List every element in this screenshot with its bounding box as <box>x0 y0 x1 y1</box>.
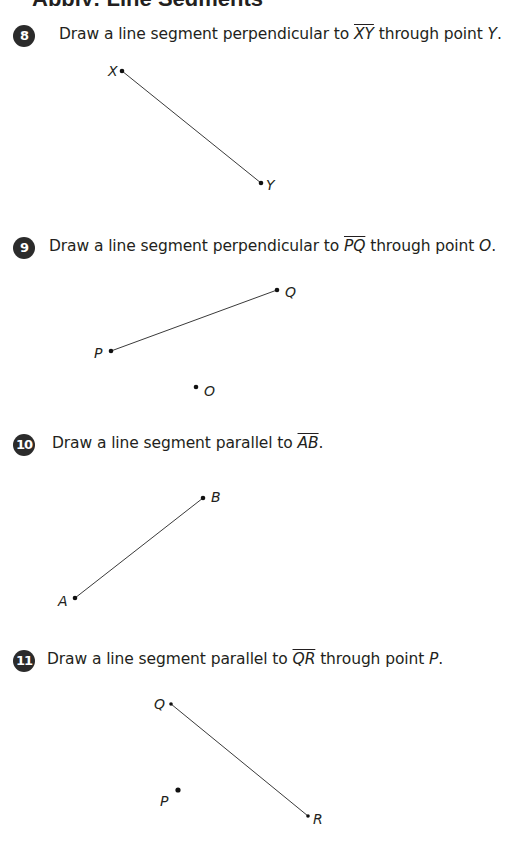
point-dot <box>175 787 180 792</box>
point-dot <box>73 596 78 601</box>
segment-line <box>75 498 203 598</box>
geometry-figures: X Y P Q O A B Q R P <box>0 0 523 860</box>
point-label: X <box>107 63 118 79</box>
point-label: O <box>204 383 215 399</box>
point-dot <box>120 69 125 74</box>
point-dot <box>109 349 114 354</box>
point-label: R <box>313 811 323 827</box>
point-dot <box>306 814 310 818</box>
point-dot <box>201 496 206 501</box>
point-label: P <box>94 345 103 361</box>
point-label: A <box>57 593 68 609</box>
point-dot <box>259 181 264 186</box>
point-label: B <box>211 489 221 505</box>
point-dot <box>275 288 280 293</box>
segment-line <box>111 290 277 351</box>
figure-segment-qr: Q R P <box>154 696 323 827</box>
figure-segment-xy: X Y <box>107 63 276 193</box>
segment-line <box>122 71 261 183</box>
figure-segment-pq: P Q O <box>94 284 296 399</box>
segment-line <box>171 704 308 816</box>
point-label: Q <box>154 696 165 712</box>
point-label: Y <box>266 177 276 193</box>
point-label: P <box>160 793 169 809</box>
point-dot <box>194 385 199 390</box>
point-dot <box>169 702 173 706</box>
point-label: Q <box>285 284 296 300</box>
figure-segment-ab: A B <box>57 489 221 609</box>
